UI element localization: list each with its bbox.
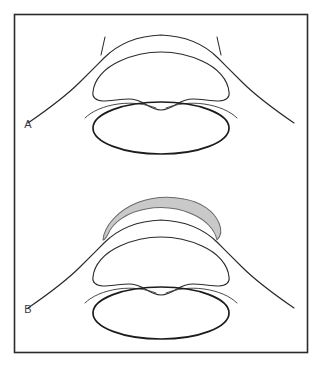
panel-b-label: B [24,303,32,315]
figure-svg: A B [0,0,322,368]
figure-root: A B [0,0,322,368]
panel-a-label: A [24,118,32,130]
figure-background [0,0,322,368]
